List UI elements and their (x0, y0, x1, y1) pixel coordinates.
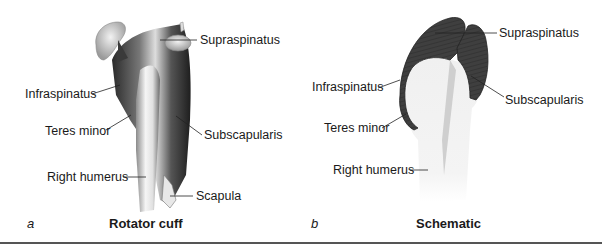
label-right-humerus: Right humerus (47, 170, 128, 184)
panel-letter-a: a (27, 216, 34, 231)
label-teres-minor: Teres minor (324, 121, 389, 135)
label-subscapularis: Subscapularis (505, 93, 584, 107)
label-teres-minor: Teres minor (45, 124, 110, 138)
panel-schematic: Supraspinatus Infraspinatus Teres minor … (300, 0, 607, 236)
label-supraspinatus: Supraspinatus (499, 26, 579, 40)
label-supraspinatus: Supraspinatus (200, 33, 280, 47)
bottom-rule (0, 242, 602, 244)
panel-title-schematic: Schematic (416, 216, 481, 231)
panel-letter-b: b (311, 216, 318, 231)
label-subscapularis: Subscapularis (204, 128, 283, 142)
panel-rotator-cuff: Supraspinatus Infraspinatus Teres minor … (0, 0, 300, 236)
label-right-humerus: Right humerus (333, 163, 414, 177)
label-infraspinatus: Infraspinatus (312, 80, 384, 94)
label-scapula: Scapula (196, 189, 241, 203)
label-infraspinatus: Infraspinatus (25, 87, 97, 101)
panel-title-rotator-cuff: Rotator cuff (109, 216, 183, 231)
